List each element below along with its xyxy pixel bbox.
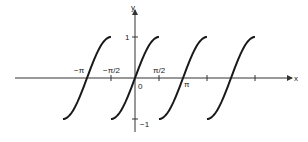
sine-branches-chart: x y 0 −π −π/2 π/2 π 1 −1 bbox=[0, 0, 308, 142]
y-tick-label-1: 1 bbox=[125, 33, 130, 42]
y-tick-label-neg-1: −1 bbox=[140, 120, 150, 129]
y-axis-label: y bbox=[131, 3, 135, 12]
x-tick-label-neg-pi: −π bbox=[74, 66, 85, 75]
x-tick-label-neg-pi-half: −π/2 bbox=[103, 66, 120, 75]
origin-label: 0 bbox=[138, 82, 143, 91]
x-tick-label-pi: π bbox=[184, 80, 190, 89]
x-tick-label-pi-half: π/2 bbox=[153, 66, 166, 75]
x-axis-label: x bbox=[294, 74, 298, 83]
